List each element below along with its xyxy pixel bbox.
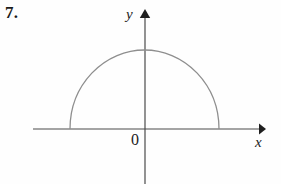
graph-plot <box>0 0 281 184</box>
y-axis-arrowhead-icon <box>140 9 150 18</box>
x-axis-arrowhead-icon <box>259 124 266 135</box>
y-axis-label: y <box>126 6 133 23</box>
x-axis-label: x <box>255 134 262 151</box>
origin-label: 0 <box>131 131 139 149</box>
figure-container: 7. y x 0 <box>0 0 281 184</box>
